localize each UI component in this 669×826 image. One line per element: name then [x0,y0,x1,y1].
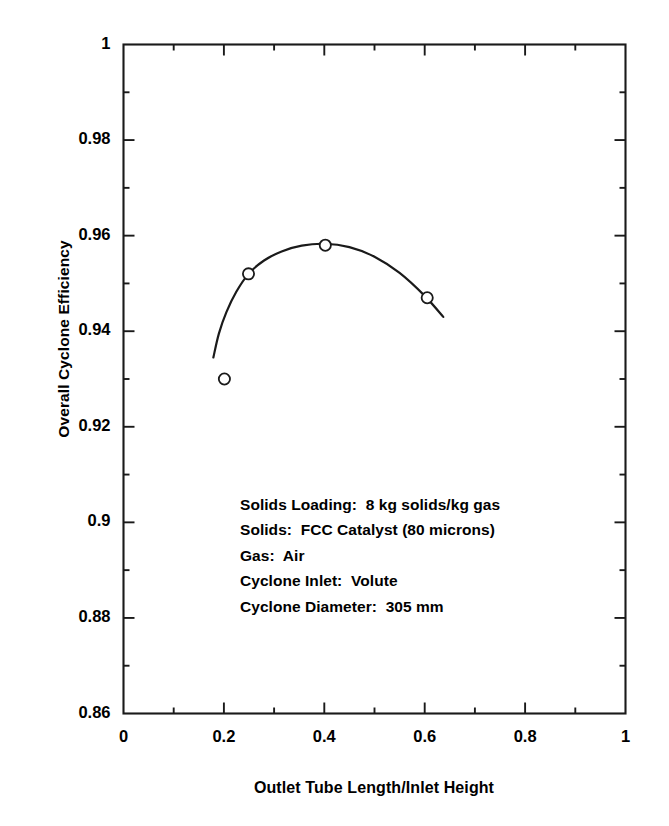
annotation-line: Cyclone Inlet: Volute [240,568,500,593]
y-tick-label: 1 [101,34,110,53]
data-point-marker [422,292,433,303]
chart-figure: Overall Cyclone Efficiency Outlet Tube L… [0,0,669,826]
x-axis-title: Outlet Tube Length/Inlet Height [123,779,625,797]
y-tick-label: 0.98 [78,129,110,148]
y-tick-label: 0.94 [78,320,110,339]
data-point-marker [320,240,331,251]
y-tick-label: 0.88 [78,607,110,626]
annotation-line: Cyclone Diameter: 305 mm [240,594,500,619]
y-tick-label: 0.9 [88,511,111,530]
annotation-line: Solids: FCC Catalyst (80 microns) [240,517,500,542]
y-tick-label: 0.96 [78,225,110,244]
data-point-marker [219,373,230,384]
conditions-annotation: Solids Loading: 8 kg solids/kg gasSolids… [240,492,500,619]
fitted-curve [213,244,443,358]
x-tick-label: 0.6 [385,727,465,746]
annotation-line: Solids Loading: 8 kg solids/kg gas [240,492,500,517]
y-tick-label: 0.86 [78,703,110,722]
annotation-line: Gas: Air [240,543,500,568]
x-tick-label: 0.2 [184,727,264,746]
data-point-markers [219,240,433,385]
x-tick-label: 0 [84,727,164,746]
x-tick-label: 0.4 [284,727,364,746]
data-point-marker [243,268,254,279]
x-tick-label: 1 [586,727,666,746]
x-tick-label: 0.8 [485,727,565,746]
y-tick-label: 0.92 [78,416,110,435]
